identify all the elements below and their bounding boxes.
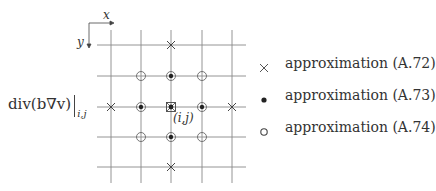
axis-indicator — [87, 21, 114, 48]
y-axis-label: y — [76, 35, 84, 49]
legend-label: approximation (A.74) — [285, 119, 436, 135]
filled-dot-icon — [139, 105, 143, 109]
filled-dot-icon — [169, 135, 173, 139]
cross-icon — [256, 57, 272, 73]
legend-label: approximation (A.72) — [285, 55, 436, 71]
open-circle-icon — [256, 121, 272, 137]
center-label: (i,j) — [173, 111, 194, 125]
filled-dot-icon — [200, 105, 204, 109]
x-axis-label: x — [103, 8, 110, 22]
legend-label: approximation (A.73) — [285, 87, 436, 103]
filled-dot-icon — [256, 89, 272, 105]
filled-dot-icon — [169, 74, 173, 78]
